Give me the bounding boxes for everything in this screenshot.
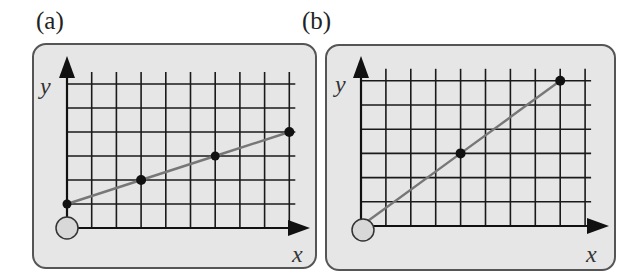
data-point [284,127,294,137]
data-point [456,148,466,158]
origin-marker-icon [352,219,374,241]
origin-marker-icon [56,217,78,239]
panel-a: xy [33,44,316,268]
data-point [555,76,565,86]
y-axis-label: y [333,71,346,97]
data-point [136,175,146,185]
x-axis-label: x [291,241,303,267]
data-point [63,200,72,209]
data-point [211,152,220,161]
diagram-canvas: xyxy [0,0,638,276]
x-axis-label: x [585,241,597,267]
y-axis-label: y [38,73,51,99]
panel-b: xy [326,45,615,270]
